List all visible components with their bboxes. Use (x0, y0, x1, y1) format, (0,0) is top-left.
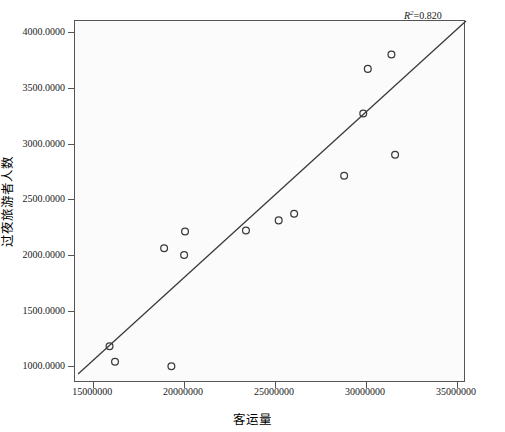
r-squared-annotation: R2=0.820 (404, 9, 442, 21)
x-axis-tick (275, 381, 276, 388)
r-squared-value: =0.820 (414, 10, 442, 21)
data-point (341, 172, 348, 179)
y-axis-tick-label: 2500.0000 (0, 193, 65, 204)
scatter-chart-figure: 过夜旅游者人数 1000.00001500.00002000.00002500.… (0, 0, 505, 432)
data-point (182, 228, 189, 235)
data-point (112, 358, 119, 365)
x-axis-tick-label: 35000000 (396, 386, 505, 397)
y-axis-tick-label: 1000.0000 (0, 360, 65, 371)
regression-line (78, 21, 466, 374)
y-axis-tick-label: 1500.0000 (0, 304, 65, 315)
y-axis-tick (68, 199, 75, 200)
y-axis-tick (68, 32, 75, 33)
data-point (388, 51, 395, 58)
data-point (291, 210, 298, 217)
y-axis-tick (68, 255, 75, 256)
x-axis-title: 客运量 (0, 409, 505, 428)
y-axis-tick (68, 88, 75, 89)
data-point (392, 151, 399, 158)
data-point (364, 65, 371, 72)
data-point (360, 110, 367, 117)
x-axis-tick (93, 381, 94, 388)
y-axis-tick (68, 311, 75, 312)
data-point (275, 217, 282, 224)
x-axis-tick (366, 381, 367, 388)
data-point-group (106, 51, 398, 370)
x-axis-tick (457, 381, 458, 388)
data-point (181, 252, 188, 259)
plot-canvas (75, 21, 466, 383)
y-axis-tick (68, 144, 75, 145)
x-axis-tick (184, 381, 185, 388)
y-axis-tick-label: 3500.0000 (0, 81, 65, 92)
y-axis-tick (68, 366, 75, 367)
data-point (161, 245, 168, 252)
plot-area (74, 20, 465, 382)
y-axis-tick-label: 2000.0000 (0, 248, 65, 259)
data-point (168, 363, 175, 370)
y-axis-tick-label: 4000.0000 (0, 26, 65, 37)
data-point (243, 227, 250, 234)
y-axis-tick-label: 3000.0000 (0, 137, 65, 148)
